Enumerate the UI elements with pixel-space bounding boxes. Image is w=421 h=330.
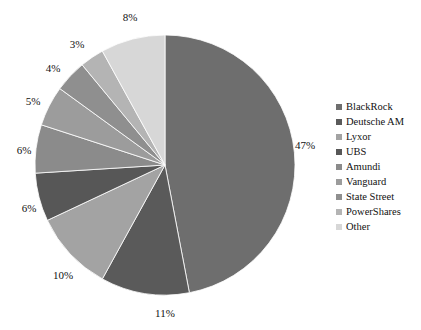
legend-swatch-icon [336,104,342,110]
legend-item[interactable]: Amundi [336,159,404,174]
legend-swatch-icon [336,224,342,230]
legend-item-label: State Street [346,191,394,202]
legend-item-label: Lyxor [346,131,371,142]
legend-item[interactable]: Vanguard [336,174,404,189]
legend-swatch-icon [336,194,342,200]
pie-slice-percent-label: 3% [70,39,85,50]
pie-slice-percent-label: 4% [46,63,61,74]
pie-slice-percent-label: 11% [155,308,175,319]
pie-slice-percent-label: 6% [17,145,32,156]
pie-slice-percent-label: 6% [22,203,37,214]
legend-item[interactable]: Other [336,219,404,234]
pie-slice-percent-label: 5% [26,96,41,107]
legend-swatch-icon [336,119,342,125]
pie-slice[interactable] [165,35,295,293]
pie-slice-percent-label: 8% [123,12,138,23]
pie-slice-percent-label: 10% [53,270,73,281]
legend-item-label: Vanguard [346,176,386,187]
legend-item[interactable]: Deutsche AM [336,114,404,129]
legend-swatch-icon [336,209,342,215]
legend-item-label: Deutsche AM [346,116,404,127]
legend-item-label: PowerShares [346,206,401,217]
legend-item[interactable]: State Street [336,189,404,204]
legend-swatch-icon [336,134,342,140]
legend-swatch-icon [336,149,342,155]
chart-legend: BlackRockDeutsche AMLyxorUBSAmundiVangua… [336,99,404,234]
pie-slice-percent-label: 47% [295,140,315,151]
legend-item-label: BlackRock [346,101,393,112]
legend-swatch-icon [336,179,342,185]
legend-item[interactable]: BlackRock [336,99,404,114]
legend-item-label: Other [346,221,370,232]
legend-item[interactable]: UBS [336,144,404,159]
pie-chart: 47%11%10%6%6%5%4%3%8% BlackRockDeutsche … [0,0,421,330]
legend-item-label: UBS [346,146,366,157]
legend-item[interactable]: PowerShares [336,204,404,219]
legend-item[interactable]: Lyxor [336,129,404,144]
legend-item-label: Amundi [346,161,380,172]
legend-swatch-icon [336,164,342,170]
